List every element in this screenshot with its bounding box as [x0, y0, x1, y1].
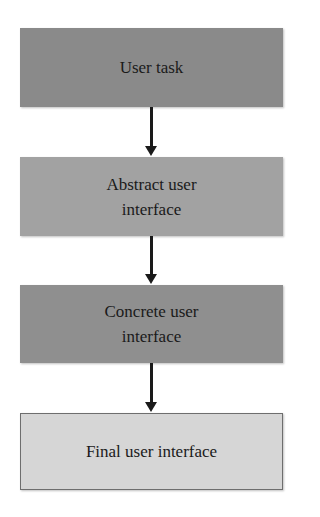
node-user-task: User task [20, 28, 283, 107]
arrow-down-icon [149, 236, 153, 285]
node-label: Final user interface [86, 439, 217, 464]
node-abstract-ui: Abstract user interface [20, 157, 283, 236]
node-concrete-ui: Concrete user interface [20, 285, 283, 363]
node-label: Abstract user interface [77, 172, 227, 222]
arrow-down-icon [149, 363, 153, 413]
node-final-ui: Final user interface [20, 413, 283, 490]
arrow-down-icon [149, 107, 153, 157]
node-label: Concrete user interface [77, 299, 227, 349]
node-label: User task [120, 55, 184, 80]
